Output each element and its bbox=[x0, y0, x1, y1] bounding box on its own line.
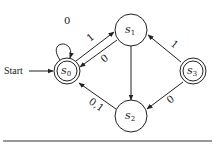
edge-label: 0 bbox=[64, 15, 70, 26]
state-s1: s1 bbox=[115, 14, 147, 46]
edge-label: 1 bbox=[169, 38, 181, 51]
state-s2: s2 bbox=[115, 100, 147, 132]
edge-label: 1 bbox=[84, 31, 96, 44]
start-arrow: Start bbox=[4, 65, 53, 76]
edge-s0-s0: 0 bbox=[56, 15, 71, 60]
state-s3: s3 bbox=[180, 58, 206, 84]
start-label: Start bbox=[4, 65, 23, 76]
edge-label: 0,1 bbox=[87, 96, 106, 114]
edge-s3-s1: 1 bbox=[148, 35, 181, 62]
fsm-diagram: Start 0 1 0 0,1 1 0 s0 s1 bbox=[0, 0, 219, 144]
state-s0: s0 bbox=[54, 58, 80, 84]
edge-s2-s0: 0,1 bbox=[79, 83, 116, 114]
edge-label: 0 bbox=[98, 52, 110, 65]
edge-label: 0 bbox=[164, 93, 176, 106]
edge-s3-s2: 0 bbox=[147, 82, 183, 109]
